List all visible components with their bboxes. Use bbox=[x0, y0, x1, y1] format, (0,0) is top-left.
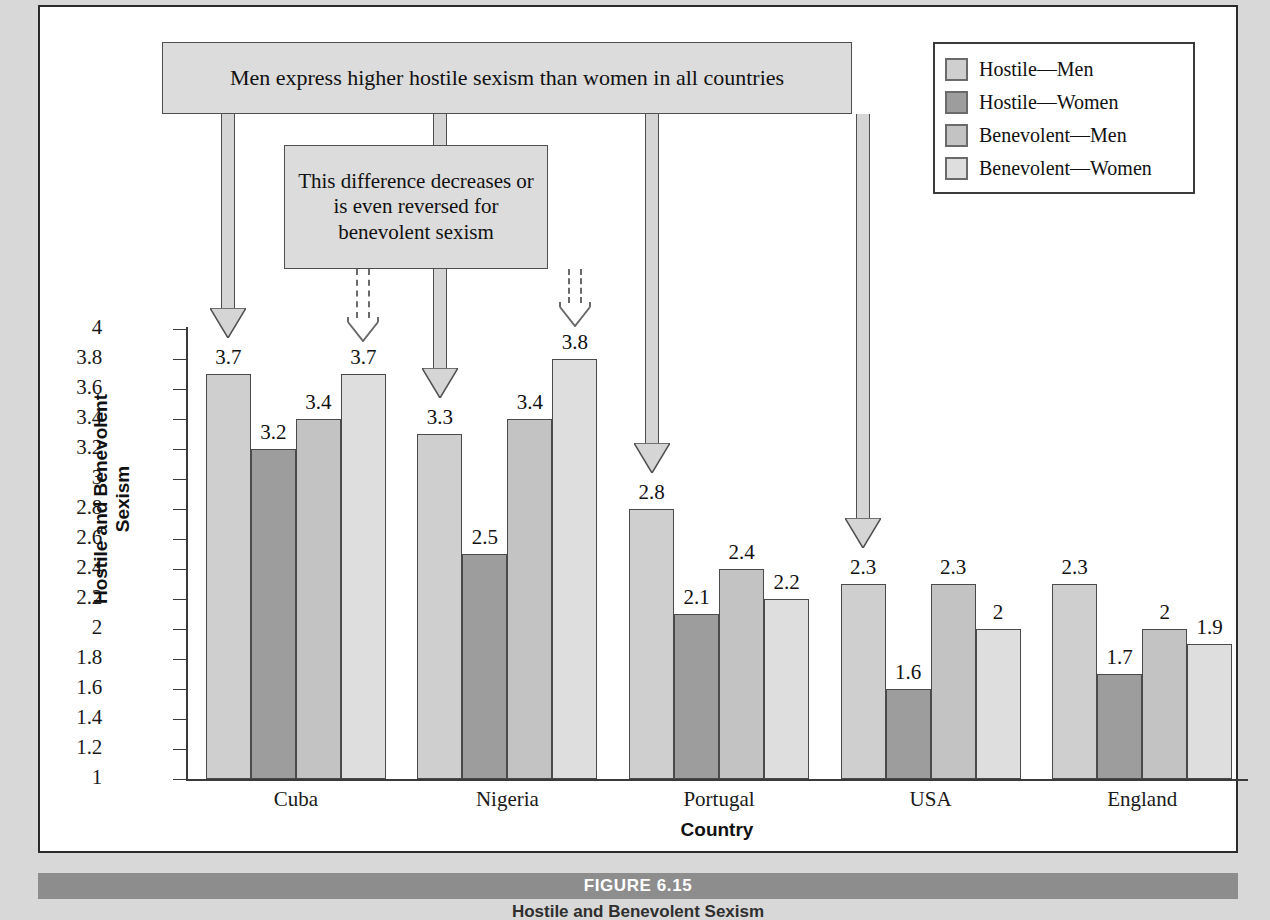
bar-value-label: 2 bbox=[962, 600, 1035, 625]
y-axis-tick bbox=[173, 539, 186, 540]
arrow-hostile-portugal-stem bbox=[645, 114, 659, 447]
x-axis-category-usa: USA bbox=[811, 787, 1051, 812]
y-axis-title: Hostile and Benevolent Sexism bbox=[90, 359, 134, 639]
y-axis-tick bbox=[173, 599, 186, 600]
bar-nigeria-2 bbox=[507, 419, 552, 779]
arrow-benevolent-cuba-head-icon bbox=[347, 316, 379, 346]
arrow-benevolent-cuba-stem bbox=[356, 269, 370, 318]
arrow-hostile-usa-head-icon bbox=[845, 518, 881, 552]
bar-england-3 bbox=[1187, 644, 1232, 779]
y-axis-tick bbox=[173, 569, 186, 570]
y-axis-tick bbox=[173, 719, 186, 720]
legend-swatch-icon bbox=[945, 157, 968, 180]
y-axis-tick bbox=[173, 779, 186, 780]
x-axis-category-cuba: Cuba bbox=[176, 787, 416, 812]
legend-label: Benevolent—Women bbox=[979, 157, 1152, 180]
y-axis-tick bbox=[173, 749, 186, 750]
bar-portugal-1 bbox=[674, 614, 719, 779]
y-axis-tick-label: 1.4 bbox=[42, 705, 102, 730]
bar-value-label: 3.7 bbox=[327, 345, 400, 370]
y-axis-tick bbox=[173, 629, 186, 630]
y-axis-tick bbox=[173, 659, 186, 660]
bar-england-1 bbox=[1097, 674, 1142, 779]
bar-england-0 bbox=[1052, 584, 1097, 779]
bar-portugal-3 bbox=[764, 599, 809, 779]
arrow-hostile-cuba-stem bbox=[221, 114, 235, 312]
legend-item-1: Hostile—Women bbox=[945, 86, 1193, 119]
legend-label: Hostile—Women bbox=[979, 91, 1118, 114]
legend-swatch-icon bbox=[945, 58, 968, 81]
bar-value-label: 2.4 bbox=[705, 540, 778, 565]
legend-swatch-icon bbox=[945, 124, 968, 147]
bar-value-label: 2.2 bbox=[750, 570, 823, 595]
bar-cuba-3 bbox=[341, 374, 386, 779]
arrow-hostile-usa-stem bbox=[856, 114, 870, 522]
legend-swatch-icon bbox=[945, 91, 968, 114]
y-axis-tick bbox=[173, 689, 186, 690]
y-axis-tick bbox=[173, 509, 186, 510]
figure-caption-text: Hostile and Benevolent Sexism bbox=[38, 902, 1238, 920]
bar-value-label: 2.3 bbox=[1038, 555, 1111, 580]
y-axis-tick-label: 1.2 bbox=[42, 735, 102, 760]
legend-label: Benevolent—Men bbox=[979, 124, 1127, 147]
bar-value-label: 1.9 bbox=[1173, 615, 1246, 640]
y-axis-tick bbox=[173, 449, 186, 450]
x-axis-category-england: England bbox=[1022, 787, 1262, 812]
bar-value-label: 2.3 bbox=[827, 555, 900, 580]
arrow-benevolent-nigeria-stem bbox=[568, 269, 582, 303]
bar-value-label: 3.8 bbox=[538, 330, 611, 355]
y-axis-line bbox=[186, 327, 188, 781]
bar-value-label: 2.3 bbox=[917, 555, 990, 580]
bar-usa-1 bbox=[886, 689, 931, 779]
x-axis-line bbox=[186, 779, 1248, 781]
y-axis-tick bbox=[173, 329, 186, 330]
arrow-hostile-nigeria-head-icon bbox=[422, 368, 458, 402]
y-axis-tick bbox=[173, 479, 186, 480]
y-axis-tick bbox=[173, 419, 186, 420]
bar-cuba-2 bbox=[296, 419, 341, 779]
bar-england-2 bbox=[1142, 629, 1187, 779]
y-axis-tick bbox=[173, 389, 186, 390]
annotation-callout-hostile: Men express higher hostile sexism than w… bbox=[162, 42, 852, 114]
chart-legend: Hostile—MenHostile—WomenBenevolent—MenBe… bbox=[933, 42, 1195, 194]
bar-nigeria-1 bbox=[462, 554, 507, 779]
bar-portugal-2 bbox=[719, 569, 764, 779]
arrow-hostile-cuba-head-icon bbox=[210, 308, 246, 342]
arrow-hostile-portugal-head-icon bbox=[634, 443, 670, 477]
bar-value-label: 2.8 bbox=[615, 480, 688, 505]
x-axis-category-nigeria: Nigeria bbox=[387, 787, 627, 812]
chart-plot-area: 11.21.41.61.822.22.42.62.833.23.43.63.84… bbox=[40, 7, 1240, 855]
y-axis-tick bbox=[173, 359, 186, 360]
y-axis-tick-label: 1 bbox=[42, 765, 102, 790]
x-axis-title: Country bbox=[186, 819, 1248, 841]
figure-number-label: FIGURE 6.15 bbox=[584, 876, 693, 896]
y-axis-tick-label: 4 bbox=[42, 315, 102, 340]
bar-nigeria-0 bbox=[417, 434, 462, 779]
bar-usa-3 bbox=[976, 629, 1021, 779]
arrow-benevolent-nigeria-head-icon bbox=[559, 301, 591, 331]
bar-value-label: 3.7 bbox=[192, 345, 265, 370]
legend-item-0: Hostile—Men bbox=[945, 53, 1193, 86]
bar-nigeria-3 bbox=[552, 359, 597, 779]
legend-item-3: Benevolent—Women bbox=[945, 152, 1193, 185]
figure-panel: 11.21.41.61.822.22.42.62.833.23.43.63.84… bbox=[38, 5, 1238, 853]
x-axis-category-portugal: Portugal bbox=[599, 787, 839, 812]
annotation-callout-benevolent: This difference decreases or is even rev… bbox=[284, 145, 548, 269]
y-axis-tick-label: 1.6 bbox=[42, 675, 102, 700]
legend-item-2: Benevolent—Men bbox=[945, 119, 1193, 152]
bar-cuba-1 bbox=[251, 449, 296, 779]
bar-value-label: 3.3 bbox=[403, 405, 476, 430]
figure-caption-bar: FIGURE 6.15 bbox=[38, 873, 1238, 899]
y-axis-tick-label: 1.8 bbox=[42, 645, 102, 670]
bar-portugal-0 bbox=[629, 509, 674, 779]
legend-label: Hostile—Men bbox=[979, 58, 1093, 81]
